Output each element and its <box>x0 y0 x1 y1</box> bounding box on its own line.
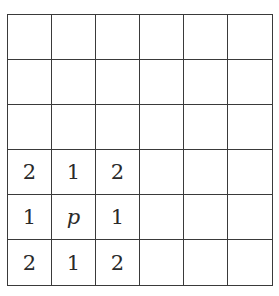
cell-r0-c4 <box>184 15 228 60</box>
cell-r4-c0: 1 <box>8 195 52 240</box>
cell-r1-c2 <box>96 60 140 105</box>
cell-r2-c0 <box>8 105 52 150</box>
cell-r0-c3 <box>140 15 184 60</box>
cell-r2-c3 <box>140 105 184 150</box>
cell-r0-c0 <box>8 15 52 60</box>
cell-r5-c5 <box>228 240 272 285</box>
cell-r3-c5 <box>228 150 272 195</box>
cell-r3-c2: 2 <box>96 150 140 195</box>
cell-r3-c1: 1 <box>52 150 96 195</box>
cell-r4-c2: 1 <box>96 195 140 240</box>
cell-r0-c1 <box>52 15 96 60</box>
cell-r3-c4 <box>184 150 228 195</box>
cell-r5-c0: 2 <box>8 240 52 285</box>
cell-r1-c3 <box>140 60 184 105</box>
grid-diagram: 2 1 2 1 p 1 2 1 2 <box>7 14 273 286</box>
cell-r2-c1 <box>52 105 96 150</box>
cell-r5-c4 <box>184 240 228 285</box>
cell-r2-c2 <box>96 105 140 150</box>
cell-r3-c3 <box>140 150 184 195</box>
cell-r5-c1: 1 <box>52 240 96 285</box>
cell-r2-c4 <box>184 105 228 150</box>
cell-r5-c3 <box>140 240 184 285</box>
cell-r4-c3 <box>140 195 184 240</box>
cell-r3-c0: 2 <box>8 150 52 195</box>
cell-r2-c5 <box>228 105 272 150</box>
cell-r0-c5 <box>228 15 272 60</box>
cell-r1-c1 <box>52 60 96 105</box>
cell-r4-c4 <box>184 195 228 240</box>
cell-r1-c0 <box>8 60 52 105</box>
cell-r4-c1-p: p <box>52 195 96 240</box>
cell-r4-c5 <box>228 195 272 240</box>
cell-r1-c4 <box>184 60 228 105</box>
cell-r5-c2: 2 <box>96 240 140 285</box>
cell-r0-c2 <box>96 15 140 60</box>
cell-r1-c5 <box>228 60 272 105</box>
